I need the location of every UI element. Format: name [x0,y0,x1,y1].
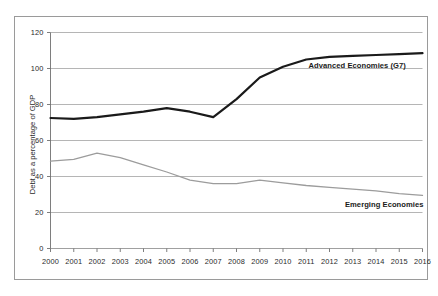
x-tick-label-2016: 2016 [406,257,438,266]
y-tick-label-120: 120 [18,28,44,37]
y-axis-title: Debt as a percentage of GDP [28,70,37,220]
y-tick-label-0: 0 [18,244,44,253]
series-label-advanced-economies: Advanced Economies (G7) [309,61,406,70]
chart-outer-border [14,16,428,280]
chart-figure: 020406080100120 200020012002200320042005… [0,0,438,296]
series-label-emerging-economies: Emerging Economies [345,200,424,209]
